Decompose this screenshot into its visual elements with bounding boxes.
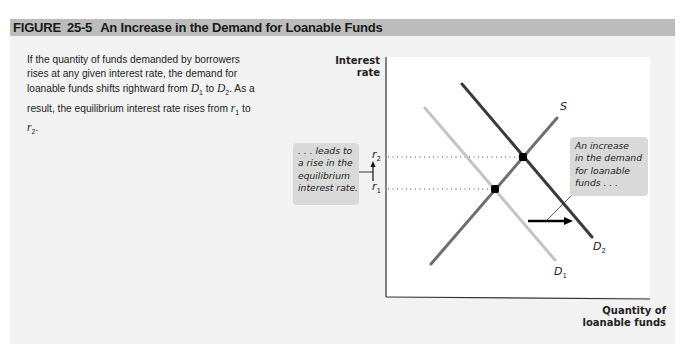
x-axis-label: Quantity ofloanable funds: [560, 305, 666, 329]
label-d1: D1: [554, 265, 567, 280]
callout-line: a rise in the: [298, 157, 353, 168]
callout-rate-rise: . . . leads to a rise in the equilibrium…: [293, 143, 359, 205]
label-supply: S: [560, 100, 567, 113]
y-axis-label-line: Interest: [335, 55, 380, 66]
equilibrium-point-e2: [519, 153, 527, 161]
callout-line: for loanable: [575, 165, 630, 176]
tick-r2: r2: [372, 148, 381, 163]
x-axis: [386, 297, 650, 299]
tick-r2-sub: 2: [377, 155, 381, 163]
callout-line: An increase: [575, 140, 629, 151]
label-supply-text: S: [560, 100, 567, 113]
demand-curve-d1: [425, 108, 555, 260]
y-axis-label-line: rate: [357, 67, 380, 78]
tick-r1: r1: [372, 180, 381, 195]
callout-line: in the demand: [575, 152, 642, 163]
callout-line: funds . . .: [575, 177, 618, 188]
y-axis-label: Interestrate: [330, 55, 380, 79]
label-d2-sub: 2: [601, 247, 605, 255]
callout-line: equilibrium: [298, 170, 350, 181]
callout-demand-increase: An increase in the demand for loanable f…: [570, 137, 648, 196]
x-axis-label-line: Quantity of: [602, 305, 666, 316]
x-axis-label-line: loanable funds: [583, 317, 666, 328]
label-d2: D2: [593, 240, 606, 255]
callout-line: . . . leads to: [298, 145, 352, 156]
equilibrium-point-e1: [491, 185, 499, 193]
shift-arrow-icon: [564, 217, 573, 225]
label-d1-sub: 1: [562, 272, 566, 280]
tick-r1-sub: 1: [377, 187, 381, 195]
callout-line: interest rate.: [298, 182, 358, 193]
